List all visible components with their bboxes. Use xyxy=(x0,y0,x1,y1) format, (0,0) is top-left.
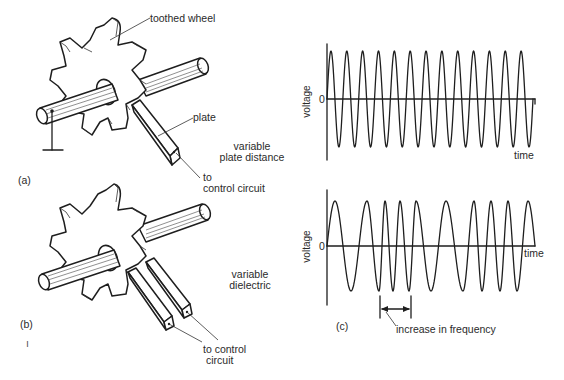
label-dielectric: dielectric xyxy=(220,280,280,291)
label-control-circuit-a: control circuit xyxy=(203,183,265,194)
capacitor-plate-a xyxy=(132,100,180,165)
stray-mark: ı xyxy=(26,338,29,349)
leader-plate xyxy=(158,118,193,136)
shaft-rear-a xyxy=(138,57,210,96)
label-plate: plate xyxy=(193,112,216,123)
leader-control-b1 xyxy=(187,312,218,340)
panel-b-drawing xyxy=(37,184,218,342)
label-circuit-b: circuit xyxy=(206,355,233,366)
zero-label-bottom: 0 xyxy=(319,241,325,252)
panel-label-b: (b) xyxy=(20,319,33,330)
graph-top xyxy=(327,44,535,160)
panel-label-a: (a) xyxy=(18,175,31,186)
label-plate-distance: plate distance xyxy=(212,152,292,163)
y-axis-label-bottom: voltage xyxy=(301,227,312,267)
x-axis-label-bottom: time xyxy=(524,248,544,259)
graph-bottom xyxy=(327,190,535,326)
leader-control-b2 xyxy=(169,324,202,342)
label-increase-in-frequency: increase in frequency xyxy=(396,324,496,335)
capacitor-plates-b xyxy=(128,258,192,330)
label-toothed-wheel: toothed wheel xyxy=(150,13,215,24)
zero-label-top: 0 xyxy=(319,94,325,105)
leader-control-a xyxy=(176,153,200,178)
x-axis-label-top: time xyxy=(514,150,534,161)
panel-a-drawing xyxy=(35,18,211,178)
y-axis-label-top: voltage xyxy=(301,82,312,122)
panel-label-c: (c) xyxy=(336,321,348,332)
double-arrow-icon xyxy=(380,296,411,326)
